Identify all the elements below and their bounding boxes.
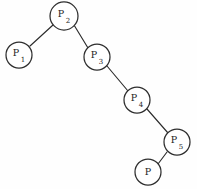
tree-diagram: P 2 P 1 P 3 P 4 P 5 bbox=[0, 0, 197, 189]
node-subscript-p1: 1 bbox=[21, 56, 25, 64]
node-label-p: P bbox=[145, 166, 152, 177]
tree-node-p5[interactable]: P 5 bbox=[164, 129, 190, 155]
node-subscript-p5: 5 bbox=[179, 143, 183, 151]
edge-p3-p4 bbox=[107, 66, 128, 91]
tree-node-p4[interactable]: P 4 bbox=[124, 87, 150, 113]
node-label-p3: P bbox=[91, 49, 98, 60]
node-subscript-p2: 2 bbox=[66, 17, 70, 25]
tree-node-p3[interactable]: P 3 bbox=[84, 44, 110, 70]
edge-p4-p5 bbox=[147, 109, 168, 133]
node-label-p5: P bbox=[171, 134, 178, 145]
tree-node-p2[interactable]: P 2 bbox=[50, 2, 78, 30]
node-label-p2: P bbox=[58, 8, 65, 19]
edge-p5-p bbox=[158, 152, 167, 164]
edge-p2-p3 bbox=[74, 25, 88, 48]
node-subscript-p3: 3 bbox=[99, 58, 103, 66]
tree-node-p[interactable]: P bbox=[135, 159, 161, 185]
tree-node-p1[interactable]: P 1 bbox=[6, 42, 32, 68]
edge-p2-p1 bbox=[30, 25, 53, 46]
node-label-p4: P bbox=[131, 92, 138, 103]
node-subscript-p4: 4 bbox=[139, 101, 144, 109]
node-label-p1: P bbox=[13, 47, 20, 58]
tree-diagram-canvas: P 2 P 1 P 3 P 4 P 5 bbox=[0, 0, 197, 189]
